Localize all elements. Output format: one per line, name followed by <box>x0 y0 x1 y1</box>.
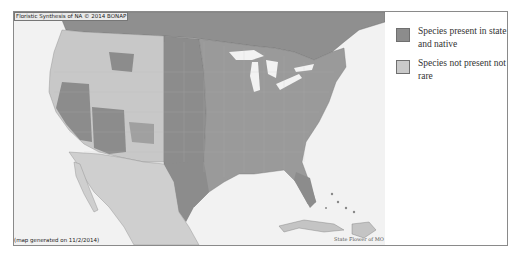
figure-frame: Floristic Synthesis of NA © 2014 BONAP (… <box>13 11 508 246</box>
distribution-map: Floristic Synthesis of NA © 2014 BONAP (… <box>14 12 385 245</box>
present-native-swatch <box>396 28 410 42</box>
copyright-caption: Floristic Synthesis of NA © 2014 BONAP <box>14 12 128 21</box>
legend-label: Species present in state and native <box>418 25 508 51</box>
not-present-swatch <box>396 60 410 74</box>
legend-item-present-native: Species present in state and native <box>396 25 508 57</box>
state-flower-caption: State Flower of MO <box>334 236 384 242</box>
generated-date-caption: (map generated on 11/2/2014) <box>14 237 99 244</box>
map-graphic <box>14 12 385 245</box>
legend-item-not-present: Species not present not rare <box>396 57 508 89</box>
map-legend: Species present in state and native Spec… <box>396 25 508 89</box>
legend-label: Species not present not rare <box>418 57 508 83</box>
